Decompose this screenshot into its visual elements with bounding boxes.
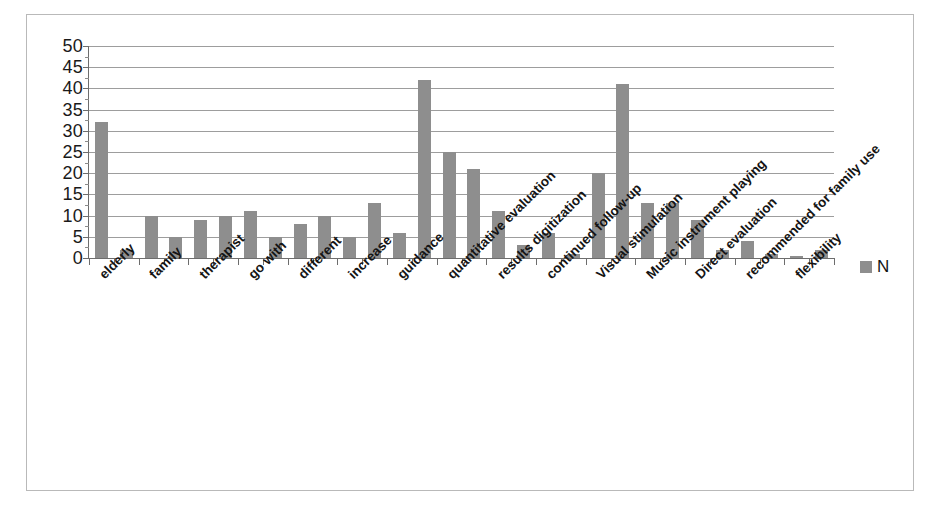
bar <box>741 241 754 258</box>
x-tick <box>586 258 587 265</box>
x-tick <box>486 258 487 265</box>
bar <box>418 80 431 258</box>
chart-frame: 05101520253035404550 elderlyfamilytherap… <box>26 14 914 491</box>
bar <box>343 237 356 258</box>
x-tick <box>238 258 239 265</box>
x-tick <box>784 258 785 265</box>
bar <box>194 220 207 258</box>
y-tick-label-5: 5 <box>37 228 83 246</box>
x-tick <box>337 258 338 265</box>
plot-area-wrapper: 05101520253035404550 elderlyfamilytherap… <box>27 15 915 492</box>
x-tick <box>735 258 736 265</box>
y-tick-label-40: 40 <box>37 79 83 97</box>
x-tick <box>635 258 636 265</box>
y-tick-label-35: 35 <box>37 101 83 119</box>
x-tick <box>387 258 388 265</box>
y-tick-label-50: 50 <box>37 37 83 55</box>
y-tick-label-20: 20 <box>37 164 83 182</box>
x-tick <box>188 258 189 265</box>
bar-series-N <box>89 46 834 258</box>
x-axis-category-labels: elderlyfamilytherapistgo withdifferentin… <box>89 266 849 446</box>
legend-label-N: N <box>877 258 889 275</box>
y-tick-label-30: 30 <box>37 122 83 140</box>
x-tick <box>536 258 537 265</box>
chart-legend: N <box>860 258 889 275</box>
bar <box>95 122 108 258</box>
y-tick-label-15: 15 <box>37 185 83 203</box>
bar <box>244 211 257 258</box>
legend-swatch-N <box>860 261 872 273</box>
chart-page: 05101520253035404550 elderlyfamilytherap… <box>0 0 942 524</box>
plot-area <box>89 46 834 258</box>
bar <box>294 224 307 258</box>
bar <box>145 216 158 258</box>
x-tick <box>834 258 835 265</box>
bar <box>616 84 629 258</box>
x-tick <box>139 258 140 265</box>
y-tick-label-10: 10 <box>37 207 83 225</box>
x-tick <box>89 258 90 265</box>
y-tick-label-25: 25 <box>37 143 83 161</box>
x-tick <box>685 258 686 265</box>
bar <box>393 233 406 258</box>
y-tick-label-0: 0 <box>37 249 83 267</box>
x-tick <box>288 258 289 265</box>
y-axis-tick-labels: 05101520253035404550 <box>35 37 83 261</box>
x-tick <box>437 258 438 265</box>
y-tick-label-45: 45 <box>37 58 83 76</box>
